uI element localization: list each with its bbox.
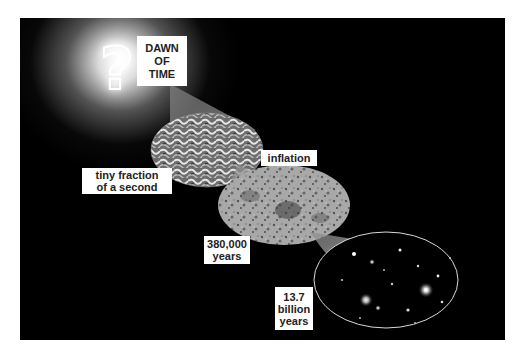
- label-line: of a second: [96, 181, 157, 193]
- label-380000-years: 380,000 years: [204, 236, 250, 264]
- label-dawn-of-time: DAWN OF TIME: [137, 36, 187, 86]
- label-line: 380,000: [207, 238, 247, 250]
- label-tiny-fraction: tiny fraction of a second: [82, 168, 172, 194]
- label-line: billion: [278, 303, 310, 315]
- label-line: inflation: [268, 152, 311, 164]
- label-inflation: inflation: [261, 150, 317, 166]
- universe-timeline-panel: ? DAWN OF TIME tiny fraction of a second…: [20, 18, 505, 340]
- label-line: 13.7: [283, 291, 304, 303]
- label-line: years: [280, 315, 309, 327]
- label-line: OF: [154, 55, 169, 68]
- label-line: tiny fraction: [96, 169, 159, 181]
- label-line: DAWN: [145, 42, 179, 55]
- label-line: years: [213, 250, 242, 262]
- galaxies-ellipse: [314, 232, 458, 328]
- label-line: TIME: [149, 68, 175, 81]
- label-13-7-billion-years: 13.7 billion years: [275, 287, 313, 330]
- question-mark-icon: ?: [100, 40, 134, 98]
